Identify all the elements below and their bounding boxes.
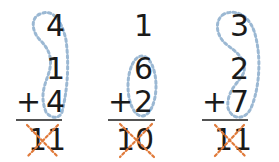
addition-worksheet: 4 1 + 4 11 1 6 + 2 10 3 2 + 7 11 bbox=[0, 0, 279, 162]
addend-1: 1 bbox=[134, 8, 153, 43]
plus-sign: + bbox=[108, 84, 133, 119]
problem-3: 3 2 + 7 11 bbox=[202, 8, 259, 157]
addend-1: 4 bbox=[46, 8, 65, 43]
problem-1: 4 1 + 4 11 bbox=[16, 8, 68, 157]
addend-1: 3 bbox=[230, 8, 249, 43]
addend-3: 7 bbox=[230, 84, 249, 119]
answer: 11 bbox=[28, 122, 66, 157]
addend-2: 6 bbox=[134, 51, 153, 86]
plus-sign: + bbox=[202, 84, 227, 119]
problem-2: 1 6 + 2 10 bbox=[108, 8, 156, 157]
addend-2: 2 bbox=[230, 51, 249, 86]
plus-sign: + bbox=[16, 84, 41, 119]
addend-2: 1 bbox=[46, 51, 65, 86]
addend-3: 4 bbox=[46, 84, 65, 119]
addend-3: 2 bbox=[134, 84, 153, 119]
